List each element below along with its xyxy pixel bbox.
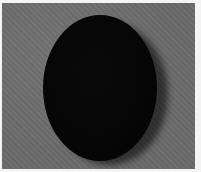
photo	[2, 3, 195, 169]
dark-oval-object	[43, 15, 157, 161]
